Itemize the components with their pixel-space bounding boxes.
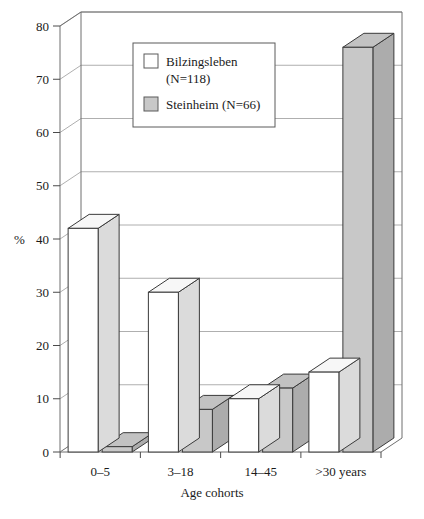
bar-bilzingsleben — [68, 214, 119, 452]
bar-chart-3d: 01020304050607080 0–53–1814–45>30 years … — [0, 0, 424, 519]
y-tick-label: 40 — [36, 232, 49, 247]
legend-label: Steinheim (N=66) — [166, 97, 260, 112]
bar-bilzingsleben — [229, 385, 280, 452]
legend-swatch — [144, 54, 158, 68]
y-tick-label: 30 — [36, 285, 49, 300]
legend: Bilzingsleben(N=118)Steinheim (N=66) — [133, 43, 275, 127]
x-tick-label: 0–5 — [90, 464, 110, 479]
y-tick-label: 0 — [43, 445, 50, 460]
x-axis-category-labels: 0–53–1814–45>30 years — [60, 452, 381, 479]
legend-label: Bilzingsleben — [166, 54, 238, 69]
y-tick-label: 20 — [36, 338, 49, 353]
x-tick-label: 14–45 — [244, 464, 277, 479]
x-tick-label: >30 years — [315, 464, 366, 479]
y-tick-label: 70 — [36, 72, 49, 87]
chart-container: 01020304050607080 0–53–1814–45>30 years … — [0, 0, 424, 519]
bar-bilzingsleben — [148, 278, 199, 452]
legend-label-sub: (N=118) — [166, 71, 210, 86]
bar-bilzingsleben — [309, 358, 360, 452]
y-axis-ticks: 01020304050607080 — [36, 19, 60, 460]
y-tick-label: 80 — [36, 19, 49, 34]
y-tick-label: 60 — [36, 125, 49, 140]
x-tick-label: 3–18 — [167, 464, 193, 479]
y-tick-label: 50 — [36, 178, 49, 193]
y-axis-label: % — [14, 232, 25, 247]
legend-swatch — [144, 97, 158, 111]
x-axis-label: Age cohorts — [180, 485, 243, 500]
y-tick-label: 10 — [36, 391, 49, 406]
